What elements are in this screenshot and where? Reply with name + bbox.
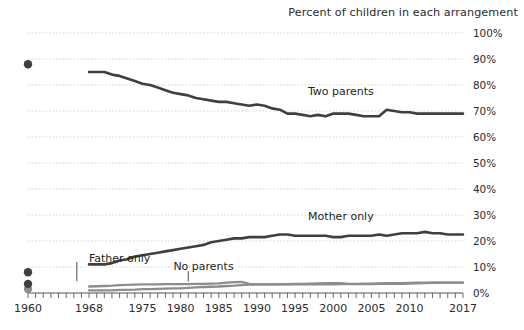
x-tick-2017: 2017 [449, 302, 477, 315]
y-tick-100%: 100% [473, 27, 503, 39]
y-tick-30%: 30% [473, 209, 496, 221]
series-label-father-only: Father only [89, 252, 151, 265]
y-tick-60%: 60% [473, 131, 496, 143]
x-tick-1995: 1995 [281, 302, 309, 315]
x-tick-2010: 2010 [396, 302, 424, 315]
x-tick-1980: 1980 [167, 302, 195, 315]
x-tick-1960: 1960 [14, 302, 42, 315]
y-axis-tick-labels: 0%10%20%30%40%50%60%70%80%90%100% [473, 27, 503, 299]
data-point-no-parents-1960 [24, 280, 32, 288]
series-label-mother-only: Mother only [308, 210, 374, 223]
x-tick-1985: 1985 [205, 302, 233, 315]
y-tick-40%: 40% [473, 183, 496, 195]
x-axis-tick-labels: 1960196819751980198519901995200020052010… [14, 302, 477, 315]
y-tick-0%: 0% [473, 287, 490, 299]
x-tick-2000: 2000 [319, 302, 347, 315]
x-tick-1975: 1975 [128, 302, 156, 315]
x-tick-1990: 1990 [243, 302, 271, 315]
y-tick-50%: 50% [473, 157, 496, 169]
series-line-two-parents [89, 72, 463, 116]
y-tick-10%: 10% [473, 261, 496, 273]
data-point-mother-only-1960 [24, 268, 32, 276]
data-point-two-parents-1960 [24, 60, 32, 68]
x-axis [28, 293, 463, 298]
y-tick-80%: 80% [473, 79, 496, 91]
y-tick-70%: 70% [473, 105, 496, 117]
x-tick-2005: 2005 [357, 302, 385, 315]
y-tick-90%: 90% [473, 53, 496, 65]
series-label-no-parents: No parents [173, 260, 234, 273]
line-chart-plot: 0%10%20%30%40%50%60%70%80%90%100% 196019… [0, 0, 524, 330]
isolated-data-points [24, 60, 32, 293]
y-tick-20%: 20% [473, 235, 496, 247]
series-label-two-parents: Two parents [307, 85, 374, 98]
x-tick-1968: 1968 [75, 302, 103, 315]
chart-container: Percent of children in each arrangement … [0, 0, 524, 330]
